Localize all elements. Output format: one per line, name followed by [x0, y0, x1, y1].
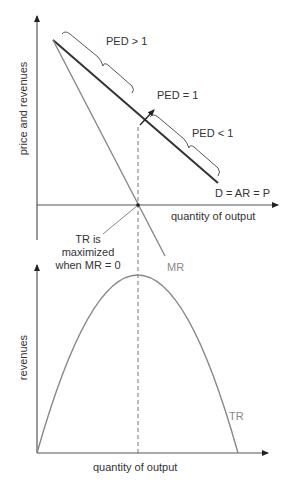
tr-max-line2: maximized [54, 246, 122, 259]
mr-curve [53, 40, 165, 256]
top-x-axis-label: quantity of output [171, 211, 255, 222]
ped-unit-label: PED = 1 [157, 90, 198, 101]
tr-max-line3: when MR = 0 [54, 259, 122, 272]
ped-elastic-label: PED > 1 [106, 36, 147, 47]
bottom-x-axis-label: quantity of output [93, 462, 177, 473]
bottom-chart [37, 265, 268, 453]
top-y-axis-label: price and revenues [18, 54, 29, 164]
diagram-svg [0, 0, 290, 491]
tr-max-annotation: TR is maximized when MR = 0 [54, 233, 122, 273]
mr-zero-point [136, 203, 140, 207]
demand-curve [53, 40, 218, 183]
bottom-y-axis-label: revenues [18, 333, 29, 383]
mr-curve-label: MR [167, 262, 184, 273]
elasticity-revenue-diagram: price and revenues quantity of output PE… [0, 0, 290, 491]
brace-inelastic-icon [150, 115, 220, 176]
ped-inelastic-label: PED < 1 [192, 128, 233, 139]
tr-max-line1: TR is [54, 233, 122, 246]
tr-curve-label: TR [229, 411, 244, 422]
tr-max-leader-line [103, 205, 138, 234]
tr-curve [37, 275, 238, 453]
demand-curve-label: D = AR = P [215, 188, 270, 199]
